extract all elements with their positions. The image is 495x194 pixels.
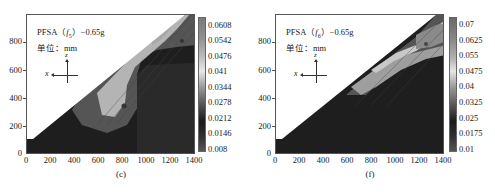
- x-tick-0: 0: [13, 156, 39, 165]
- colorbar-tick: 0.0278: [208, 98, 231, 107]
- colorbar-f: [449, 17, 457, 152]
- y-tick-mark: [272, 70, 275, 71]
- colorbar-tick: 0.008: [208, 145, 227, 154]
- x-tick-1000: 1000: [133, 156, 159, 165]
- x-tick-1400: 1400: [430, 156, 456, 165]
- y-tick-400: 400: [251, 94, 271, 103]
- x-tick-1200: 1200: [157, 156, 183, 165]
- x-tick-400: 400: [61, 156, 87, 165]
- colorbar-tick: 0.0542: [208, 36, 231, 45]
- y-tick-mark: [23, 70, 26, 71]
- colorbar-tick: 0.0625: [459, 36, 482, 45]
- colorbar-tick: 0.025: [459, 114, 478, 123]
- y-tick-200: 200: [251, 122, 271, 131]
- x-tick-200: 200: [286, 156, 312, 165]
- colorbar-tick: 0.0212: [208, 114, 231, 123]
- y-tick-mark: [272, 42, 275, 43]
- y-tick-200: 200: [2, 122, 22, 131]
- panel-f: 800 600 400 200 0 0 200 400 600 800 1000…: [248, 0, 495, 194]
- chart-title: PFSA（f5）−0.65g: [37, 25, 105, 39]
- colorbar-tick: 0.041: [208, 67, 227, 76]
- colorbar-tick: 0.0325: [459, 98, 482, 107]
- y-tick-mark: [23, 126, 26, 127]
- panel-c: 800 600 400 200 0 0 200 400 600 800 1000…: [0, 0, 248, 194]
- x-tick-1400: 1400: [181, 156, 207, 165]
- y-tick-mark: [23, 98, 26, 99]
- x-tick-200: 200: [37, 156, 63, 165]
- chart-title: PFSA（f6）−0.65g: [286, 25, 354, 39]
- axis-orientation-icon: z x: [46, 52, 76, 86]
- x-tick-400: 400: [310, 156, 336, 165]
- colorbar-tick: 0.0344: [208, 83, 231, 92]
- y-tick-800: 800: [2, 37, 22, 46]
- colorbar-tick: 0.01: [459, 145, 474, 154]
- colorbar-c: [198, 17, 206, 152]
- x-tick-800: 800: [358, 156, 384, 165]
- panel-caption: (f): [360, 169, 380, 179]
- colorbar-tick: 0.0175: [459, 129, 482, 138]
- y-tick-600: 600: [251, 66, 271, 75]
- colorbar-tick: 0.0608: [208, 21, 231, 30]
- colorbar-tick: 0.0146: [208, 129, 231, 138]
- colorbar-tick: 0.04: [459, 82, 474, 91]
- x-tick-0: 0: [262, 156, 288, 165]
- y-tick-600: 600: [2, 66, 22, 75]
- axis-orientation-icon: z x: [295, 52, 325, 86]
- x-tick-1000: 1000: [382, 156, 408, 165]
- colorbar-tick: 0.07: [459, 20, 474, 29]
- colorbar-tick: 0.055: [459, 51, 478, 60]
- x-tick-800: 800: [109, 156, 135, 165]
- y-tick-mark: [272, 98, 275, 99]
- y-tick-mark: [272, 126, 275, 127]
- colorbar-tick: 0.0475: [459, 67, 482, 76]
- y-tick-400: 400: [2, 94, 22, 103]
- x-tick-1200: 1200: [406, 156, 432, 165]
- y-tick-800: 800: [251, 37, 271, 46]
- y-tick-mark: [23, 42, 26, 43]
- colorbar-tick: 0.0476: [208, 52, 231, 61]
- panel-caption: (c): [111, 169, 131, 179]
- x-tick-600: 600: [85, 156, 111, 165]
- x-tick-600: 600: [334, 156, 360, 165]
